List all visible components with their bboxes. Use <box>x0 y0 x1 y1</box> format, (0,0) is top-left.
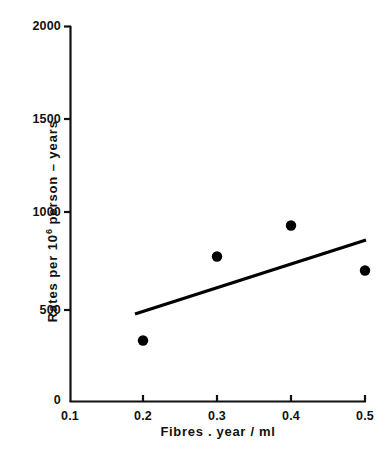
x-tick-label-0-2: 0.2 <box>134 409 152 423</box>
chart-figure: 2000 1500 1000 500 0 0.1 0.2 0.3 0.4 0.5… <box>0 0 391 451</box>
y-tick-label-0: 0 <box>14 393 61 407</box>
y-axis-title-prefix: Rates per 10 <box>45 234 60 322</box>
data-point-0-5 <box>360 265 370 275</box>
data-point-0-4 <box>286 220 296 230</box>
y-axis-title: Rates per 106 person – years <box>44 81 60 361</box>
x-tick-label-0-1: 0.1 <box>61 409 79 423</box>
x-tick-label-0-4: 0.4 <box>282 409 300 423</box>
y-axis-title-exponent: 6 <box>44 229 54 234</box>
data-point-0-3 <box>212 251 222 261</box>
x-tick-label-0-5: 0.5 <box>356 409 374 423</box>
y-axis-title-suffix: person – years <box>45 120 60 229</box>
x-tick-label-0-3: 0.3 <box>208 409 226 423</box>
data-point-markers <box>138 220 370 345</box>
y-tick-label-2000: 2000 <box>14 19 61 33</box>
x-axis-title: Fibres . year / ml <box>70 424 366 439</box>
data-point-0-2 <box>138 335 148 345</box>
trend-line <box>135 240 366 314</box>
